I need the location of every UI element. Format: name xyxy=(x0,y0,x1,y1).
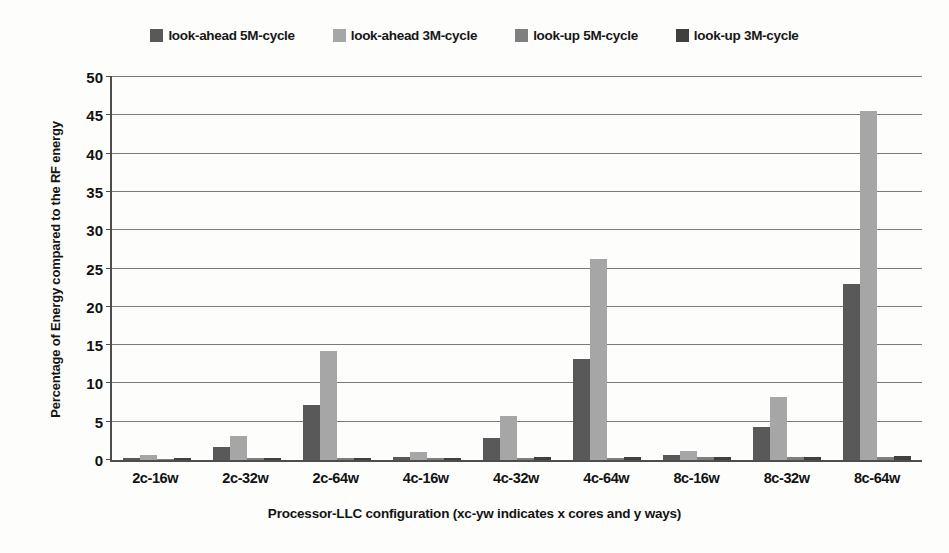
x-axis-tick-label: 4c-32w xyxy=(471,470,561,486)
x-axis-tick-label: 8c-16w xyxy=(651,470,741,486)
bar-group xyxy=(652,77,742,460)
x-axis-tick-label: 2c-64w xyxy=(290,470,380,486)
bar-group xyxy=(112,77,202,460)
x-axis-tick-label: 2c-32w xyxy=(200,470,290,486)
bar-chart: look-ahead 5M-cyclelook-ahead 3M-cyclelo… xyxy=(0,0,949,553)
x-axis-tick-label: 8c-32w xyxy=(742,470,832,486)
legend-item-label: look-up 3M-cycle xyxy=(694,28,799,43)
bar[interactable] xyxy=(213,447,230,460)
y-axis-tick-label: 35 xyxy=(86,183,103,200)
bar[interactable] xyxy=(427,458,444,460)
bar[interactable] xyxy=(573,359,590,460)
bar-group xyxy=(472,77,562,460)
y-axis-tick-label: 10 xyxy=(86,375,103,392)
legend-swatch-icon xyxy=(515,29,528,42)
bar[interactable] xyxy=(590,259,607,460)
y-axis-tick-label: 40 xyxy=(86,145,103,162)
y-axis-title: Percentage of Energy compared to the RF … xyxy=(44,77,66,462)
legend-item-label: look-up 5M-cycle xyxy=(533,28,638,43)
bar[interactable] xyxy=(517,458,534,460)
y-axis-tick-label: 45 xyxy=(86,107,103,124)
legend-item[interactable]: look-up 5M-cycle xyxy=(515,28,638,43)
y-axis-tick-label: 25 xyxy=(86,260,103,277)
legend-item-label: look-ahead 3M-cycle xyxy=(351,28,477,43)
bar[interactable] xyxy=(607,458,624,460)
bar[interactable] xyxy=(393,457,410,460)
bar[interactable] xyxy=(247,458,264,460)
bar[interactable] xyxy=(410,452,427,460)
bar-group xyxy=(382,77,472,460)
bar[interactable] xyxy=(444,458,461,460)
legend-item-label: look-ahead 5M-cycle xyxy=(168,28,294,43)
legend-swatch-icon xyxy=(333,29,346,42)
y-axis-tick-label: 50 xyxy=(86,69,103,86)
bar[interactable] xyxy=(123,458,140,460)
y-axis-tick-label: 0 xyxy=(95,452,103,469)
y-axis-tick-label: 30 xyxy=(86,222,103,239)
x-axis-title: Processor-LLC configuration (xc-yw indic… xyxy=(0,506,949,521)
chart-legend: look-ahead 5M-cyclelook-ahead 3M-cyclelo… xyxy=(0,28,949,43)
bar[interactable] xyxy=(843,284,860,460)
bar[interactable] xyxy=(354,458,371,460)
bar[interactable] xyxy=(894,456,911,460)
plot-area: 05101520253035404550 xyxy=(110,77,922,462)
bar[interactable] xyxy=(714,457,731,460)
y-axis-tick-label: 5 xyxy=(95,413,103,430)
bar[interactable] xyxy=(264,458,281,460)
y-axis-tick-label: 20 xyxy=(86,298,103,315)
bar[interactable] xyxy=(877,457,894,460)
x-axis-tick-labels: 2c-16w2c-32w2c-64w4c-16w4c-32w4c-64w8c-1… xyxy=(110,470,922,486)
bar[interactable] xyxy=(787,457,804,460)
bar[interactable] xyxy=(174,458,191,460)
legend-item[interactable]: look-up 3M-cycle xyxy=(676,28,799,43)
bar[interactable] xyxy=(140,455,157,460)
bar[interactable] xyxy=(500,416,517,460)
bar[interactable] xyxy=(860,111,877,460)
bar-group xyxy=(562,77,652,460)
bar[interactable] xyxy=(680,451,697,460)
y-axis-title-label: Percentage of Energy compared to the RF … xyxy=(48,121,63,417)
bar-group xyxy=(292,77,382,460)
bar[interactable] xyxy=(303,405,320,460)
bar-groups xyxy=(112,77,922,460)
x-axis-tick-label: 8c-64w xyxy=(832,470,922,486)
x-axis-tick-label: 4c-64w xyxy=(561,470,651,486)
legend-swatch-icon xyxy=(676,29,689,42)
x-axis-tick-label: 4c-16w xyxy=(381,470,471,486)
bar[interactable] xyxy=(624,457,641,460)
bar[interactable] xyxy=(320,351,337,460)
legend-swatch-icon xyxy=(150,29,163,42)
y-axis-tick-label: 15 xyxy=(86,337,103,354)
bar[interactable] xyxy=(697,457,714,460)
legend-item[interactable]: look-ahead 5M-cycle xyxy=(150,28,294,43)
bar[interactable] xyxy=(534,457,551,460)
x-axis-tick-label: 2c-16w xyxy=(110,470,200,486)
bar[interactable] xyxy=(663,455,680,460)
bar[interactable] xyxy=(230,436,247,461)
bar[interactable] xyxy=(804,457,821,460)
bar[interactable] xyxy=(483,438,500,460)
legend-item[interactable]: look-ahead 3M-cycle xyxy=(333,28,477,43)
bar-group xyxy=(832,77,922,460)
bar[interactable] xyxy=(770,397,787,460)
bar[interactable] xyxy=(753,427,770,460)
bar[interactable] xyxy=(157,459,174,460)
bar-group xyxy=(742,77,832,460)
bar-group xyxy=(202,77,292,460)
bar[interactable] xyxy=(337,458,354,460)
